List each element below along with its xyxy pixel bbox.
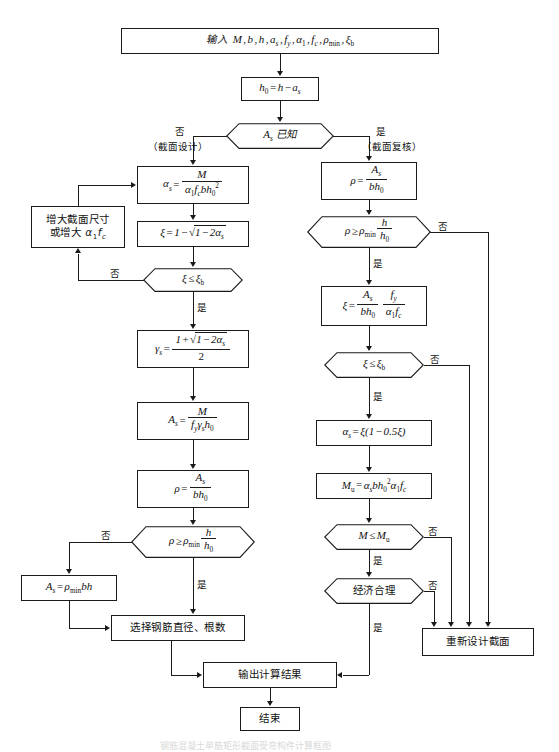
label-no-rho-left: 否 bbox=[101, 528, 111, 542]
edge-select-to-output-h bbox=[171, 675, 197, 676]
edge-no-m-v bbox=[451, 537, 452, 622]
edge-alpha-to-xi bbox=[193, 204, 194, 215]
edge-rho-right-to-check bbox=[369, 200, 370, 210]
edge-yes-rho-left bbox=[193, 558, 194, 609]
node-xi-check-left-label: ξ≤ξb bbox=[143, 272, 243, 288]
flowchart-canvas: 输入 M,b,h,as,fy,α1,fc,ρmin,ξb h0=h−as As … bbox=[0, 0, 559, 752]
node-output: 输出计算结果 bbox=[203, 662, 337, 688]
edge-yes-econ-v bbox=[369, 604, 370, 675]
arrowhead-rho-left bbox=[190, 464, 196, 469]
node-h0-label: h0=h−as bbox=[259, 81, 300, 97]
edge-h0-to-decision bbox=[280, 101, 281, 117]
arrowhead-select-bars-top bbox=[190, 609, 196, 614]
edge-xi-right-to-check bbox=[369, 326, 370, 346]
node-xi-calc-right: ξ=Asbh0 fyα1fc bbox=[321, 286, 427, 326]
edge-enlarge-up-v bbox=[78, 185, 79, 207]
node-xi-check-right-label: ξ≤ξb bbox=[324, 357, 424, 373]
edge-as-min-down bbox=[69, 601, 70, 628]
label-yes-rho-left: 是 bbox=[197, 577, 207, 591]
arrowhead-economic bbox=[366, 572, 372, 577]
arrowhead-xi-check-right bbox=[366, 346, 372, 351]
node-input-label: 输入 M,b,h,as,fy,α1,fc,ρmin,ξb bbox=[206, 33, 354, 49]
node-rho-check-left-label: ρ≥ρminhh0 bbox=[131, 527, 255, 556]
arrowhead-xi-check-left bbox=[190, 262, 196, 267]
arrowhead-alpha-s-right bbox=[366, 414, 372, 419]
edge-yes-xi-left bbox=[193, 292, 194, 324]
node-as-known-label: As 已知 bbox=[226, 128, 334, 144]
edge-gamma-to-as bbox=[193, 368, 194, 396]
node-h0: h0=h−as bbox=[241, 77, 319, 101]
edge-no-enlarge-v bbox=[78, 254, 79, 281]
arrowhead-as-min bbox=[66, 569, 72, 574]
node-as-known: As 已知 bbox=[226, 123, 334, 149]
arrowhead-end bbox=[267, 701, 273, 706]
node-alpha-s-right-label: αs=ξ(1−0.5ξ) bbox=[342, 425, 405, 441]
edge-mu-to-mcheck bbox=[369, 499, 370, 518]
node-end-label: 结束 bbox=[259, 712, 280, 725]
arrowhead-m-check bbox=[366, 518, 372, 523]
arrowhead-output-right bbox=[337, 672, 342, 678]
label-yes-rho-right: 是 bbox=[373, 256, 383, 270]
arrowhead-gamma-s bbox=[190, 324, 196, 329]
node-rho-right: ρ=Asbh0 bbox=[321, 162, 417, 200]
edge-no-rho-left-v bbox=[69, 542, 70, 569]
node-enlarge-line2: 或增大 α1fc bbox=[50, 226, 107, 242]
node-m-check: M≤Mu bbox=[324, 524, 424, 550]
arrowhead-redesign-3 bbox=[466, 622, 472, 627]
arrowhead-redesign-2 bbox=[448, 622, 454, 627]
edge-yes-m bbox=[369, 550, 370, 572]
edge-input-to-h0 bbox=[280, 54, 281, 71]
node-end: 结束 bbox=[240, 707, 300, 731]
node-output-label: 输出计算结果 bbox=[238, 668, 302, 681]
arrowhead-rho-check-left bbox=[190, 520, 196, 525]
label-yes-econ: 是 bbox=[373, 620, 383, 634]
figure-caption: 钢筋混凝土单筋矩形截面受弯构件计算框图 bbox=[160, 739, 331, 752]
arrowhead-enlarge bbox=[75, 248, 81, 253]
arrowhead-redesign-4 bbox=[485, 622, 491, 627]
node-gamma-s-label: γs=1+√1−2αs2 bbox=[155, 334, 231, 364]
label-yes-xi-left: 是 bbox=[197, 300, 207, 314]
arrowhead-output-left bbox=[197, 672, 202, 678]
node-mu-calc: Mu=αsbh02α1fc bbox=[316, 473, 432, 499]
edge-yes-xi-right bbox=[369, 378, 370, 414]
label-yes-check: 是 bbox=[376, 124, 386, 138]
edge-xi-to-check bbox=[193, 247, 194, 262]
arrowhead-as-calc bbox=[190, 396, 196, 401]
edge-enlarge-up-h bbox=[78, 185, 131, 186]
edge-as-to-rho bbox=[193, 440, 194, 464]
node-rho-check-right: ρ≥ρminhh0 bbox=[307, 216, 431, 248]
arrowhead-xi-calc-right bbox=[366, 280, 372, 285]
arrowhead-alpha-s-from-enlarge bbox=[131, 182, 136, 188]
node-enlarge-line1: 增大截面尺寸 bbox=[46, 213, 110, 226]
edge-no-rho-right-v bbox=[488, 232, 489, 622]
edge-no-xi-right-v bbox=[469, 365, 470, 622]
node-rho-check-right-label: ρ≥ρminhh0 bbox=[307, 217, 431, 246]
node-economic: 经济合理 bbox=[324, 578, 424, 604]
label-no-enlarge: 否 bbox=[110, 266, 120, 280]
edge-no-rho-left-h bbox=[69, 542, 132, 543]
label-no-design: 否 bbox=[175, 124, 185, 138]
edge-yes-check-h bbox=[333, 136, 369, 137]
node-as-min-label: As=ρminbh bbox=[46, 580, 92, 596]
label-no-xi-right: 否 bbox=[430, 352, 440, 366]
arrowhead-rho-right bbox=[366, 156, 372, 161]
edge-rho-to-check-left bbox=[193, 508, 194, 520]
node-alpha-s-calc-label: αs=Mα1fcbh02 bbox=[163, 170, 223, 200]
edge-alpha-to-mu bbox=[369, 446, 370, 467]
node-xi-calc-left-label: ξ=1−√1−2αs bbox=[160, 225, 226, 242]
edge-output-to-end bbox=[270, 688, 271, 701]
edge-as-min-right bbox=[69, 628, 105, 629]
node-enlarge-section: 增大截面尺寸 或增大 α1fc bbox=[31, 206, 125, 248]
node-rho-left-label: ρ=Asbh0 bbox=[174, 473, 211, 505]
node-redesign: 重新设计截面 bbox=[422, 628, 534, 656]
node-xi-check-left: ξ≤ξb bbox=[143, 268, 243, 292]
node-alpha-s-calc: αs=Mα1fcbh02 bbox=[137, 166, 249, 204]
node-rho-left: ρ=Asbh0 bbox=[137, 470, 249, 508]
edge-no-econ-v bbox=[434, 591, 435, 622]
node-rho-check-left: ρ≥ρminhh0 bbox=[131, 526, 255, 558]
edge-yes-econ-h bbox=[343, 675, 369, 676]
node-economic-label: 经济合理 bbox=[324, 584, 424, 597]
arrowhead-alpha-s-calc bbox=[190, 160, 196, 165]
node-gamma-s: γs=1+√1−2αs2 bbox=[137, 330, 249, 368]
node-input: 输入 M,b,h,as,fy,α1,fc,ρmin,ξb bbox=[121, 28, 439, 54]
